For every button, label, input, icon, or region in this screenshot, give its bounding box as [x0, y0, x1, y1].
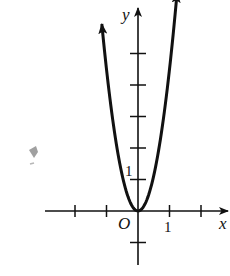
- y-tick-label-1: 1: [125, 163, 133, 179]
- parabola-graph: y x O 1 1: [0, 0, 230, 276]
- y-axis-label: y: [120, 5, 130, 24]
- x-axis-label: x: [218, 214, 227, 233]
- parabola-left-branch: [102, 24, 138, 211]
- x-tick-label-1: 1: [164, 219, 172, 235]
- origin-label: O: [118, 214, 130, 233]
- smudge-mark: [29, 146, 38, 164]
